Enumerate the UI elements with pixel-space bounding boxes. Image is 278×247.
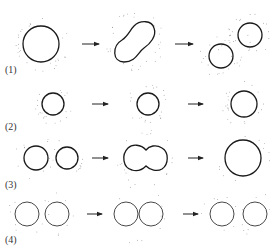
split-circle-right — [238, 23, 262, 47]
split-circle-left — [209, 44, 233, 68]
merged-large-circle — [225, 140, 261, 176]
small-circle — [137, 93, 159, 115]
particle-dots — [9, 13, 269, 243]
adjacent-circle-right — [56, 147, 78, 169]
adjacent-circle-left — [24, 146, 48, 170]
row-label: (3) — [5, 179, 17, 191]
row-label: (1) — [5, 64, 17, 76]
vesicle-transition-diagram: (1) (2) (3) (4) — [0, 0, 278, 247]
peanut-shape — [115, 22, 155, 62]
touching-circle-right — [45, 202, 69, 226]
row-3: (3) — [5, 140, 261, 191]
separated-circle-left — [210, 202, 234, 226]
fused-peanut-shape — [124, 145, 167, 170]
row-2: (2) — [5, 91, 257, 133]
small-circle — [42, 93, 64, 115]
overlap-circle-right — [139, 202, 163, 226]
medium-circle — [231, 91, 257, 117]
large-circle — [23, 26, 59, 62]
row-label: (4) — [5, 234, 17, 246]
separated-circle-right — [243, 202, 267, 226]
row-4: (4) — [5, 202, 267, 246]
row-label: (2) — [5, 121, 17, 133]
overlap-circle-left — [114, 202, 138, 226]
touching-circle-left — [15, 202, 39, 226]
row-1: (1) — [5, 22, 262, 76]
